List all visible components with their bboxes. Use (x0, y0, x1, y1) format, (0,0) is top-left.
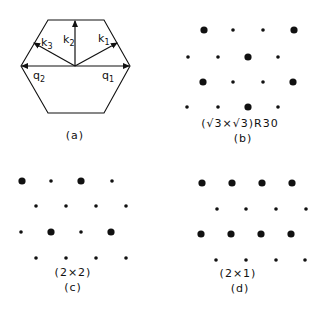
spot-large-b (290, 26, 297, 33)
spot-large-c (107, 228, 114, 235)
caption-a: (a) (66, 129, 84, 142)
panel-b: (√3×√3)R30 (b) (185, 26, 297, 145)
spot-small-d (214, 258, 218, 262)
spot-small-b (186, 55, 190, 59)
dot-lattice-d (197, 179, 307, 261)
panel-d: (2×1) (d) (197, 179, 307, 295)
spot-small-c (94, 204, 98, 208)
spot-large-d (227, 230, 234, 237)
spot-large-d (288, 179, 295, 186)
spot-small-d (215, 207, 219, 211)
spot-small-c (79, 230, 83, 234)
spot-large-d (257, 230, 264, 237)
spot-large-c (18, 177, 25, 184)
structure-label-d: (2×1) (220, 267, 257, 280)
structure-label-b: (√3×√3)R30 (201, 117, 278, 130)
dot-lattice-b (185, 26, 297, 110)
spot-large-b (244, 53, 251, 60)
spot-small-c (64, 256, 68, 260)
label-k1: k1 (98, 32, 109, 47)
spot-small-b (261, 28, 265, 32)
caption-d: (d) (231, 282, 250, 295)
spot-small-b (185, 105, 189, 109)
spot-small-c (64, 204, 68, 208)
spot-large-d (197, 230, 204, 237)
spot-small-d (244, 207, 248, 211)
spot-small-c (124, 256, 128, 260)
spot-large-b (289, 78, 296, 85)
spot-small-d (304, 207, 308, 211)
spot-small-c (124, 204, 128, 208)
spot-small-b (216, 105, 220, 109)
spot-small-c (49, 179, 53, 183)
spot-large-d (287, 230, 294, 237)
spot-large-c (77, 177, 84, 184)
label-q1: q1 (102, 69, 114, 84)
spot-small-c (34, 204, 38, 208)
spot-small-c (19, 230, 23, 234)
lattice-figure: k3 k2 k1 q2 q1 (a) (√3×√3)R30 (b) (2×2) … (0, 0, 321, 311)
spot-small-c (34, 256, 38, 260)
dot-lattice-c (18, 177, 127, 259)
vector-k1-arrow (75, 43, 117, 66)
spot-small-c (94, 256, 98, 260)
spot-large-d (228, 179, 235, 186)
spot-small-d (274, 207, 278, 211)
spot-large-d (198, 179, 205, 186)
spot-large-b (200, 26, 207, 33)
caption-c: (c) (64, 281, 82, 294)
spot-small-d (244, 258, 248, 262)
panel-c: (2×2) (c) (18, 177, 127, 294)
spot-small-d (274, 258, 278, 262)
spot-small-b (231, 28, 235, 32)
spot-large-c (47, 228, 54, 235)
spot-large-d (258, 179, 265, 186)
spot-small-b (216, 55, 220, 59)
spot-large-b (244, 103, 251, 110)
structure-label-c: (2×2) (55, 266, 92, 279)
spot-small-b (276, 105, 280, 109)
label-k3: k3 (41, 36, 52, 51)
spot-large-b (199, 78, 206, 85)
spot-small-b (276, 55, 280, 59)
label-k2: k2 (63, 33, 74, 48)
spot-small-d (303, 258, 307, 262)
panel-a: k3 k2 k1 q2 q1 (a) (21, 20, 130, 142)
caption-b: (b) (234, 132, 253, 145)
spot-small-b (261, 80, 265, 84)
spot-small-c (110, 179, 114, 183)
label-q2: q2 (33, 69, 45, 84)
spot-small-b (231, 80, 235, 84)
